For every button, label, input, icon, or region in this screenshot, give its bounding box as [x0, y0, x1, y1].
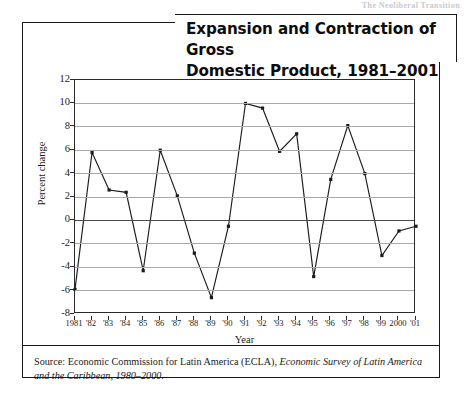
- x-tick-label-2: '83: [100, 318, 116, 328]
- series-line: [75, 103, 416, 297]
- plot-frame: [74, 79, 415, 313]
- y-tick-label--4: -4: [61, 261, 70, 271]
- source-prefix: Source: Economic Commission for Latin Am…: [34, 356, 280, 367]
- x-tick-label-10: '91: [237, 318, 253, 328]
- x-tick-label-12: '93: [271, 318, 287, 328]
- gridline-8: [75, 126, 414, 127]
- gridline-4: [75, 173, 414, 174]
- data-point-2000: [397, 229, 400, 232]
- data-point-1985: [142, 269, 145, 272]
- data-point-1995: [312, 275, 315, 278]
- source-suffix: .: [161, 370, 164, 381]
- x-tick-label-11: '92: [254, 318, 270, 328]
- data-point-1994: [295, 132, 298, 135]
- gridline-2: [75, 197, 414, 198]
- gridline--2: [75, 243, 414, 244]
- y-tick-label--6: -6: [61, 285, 70, 295]
- gridline-6: [75, 150, 414, 151]
- gridline--4: [75, 267, 414, 268]
- data-point-1996: [329, 178, 332, 181]
- x-tick-label-13: '94: [288, 318, 304, 328]
- data-point-1989: [210, 296, 213, 299]
- y-tick-label--8: -8: [61, 308, 70, 318]
- x-tick-label-7: '88: [185, 318, 201, 328]
- x-axis-tick-labels: 1981'82'83'84'85'86'87'88'89'90'91'92'93…: [74, 316, 415, 332]
- x-tick-label-1: '82: [83, 318, 99, 328]
- x-tick-label-5: '86: [151, 318, 167, 328]
- data-point-1982: [90, 151, 93, 154]
- running-head: The Neoliberal Transition: [248, 0, 460, 11]
- x-tick-label-8: '89: [202, 318, 218, 328]
- gridline-10: [75, 103, 414, 104]
- x-tick-label-17: '98: [356, 318, 372, 328]
- data-point-1988: [193, 252, 196, 255]
- x-tick-label-15: '96: [322, 318, 338, 328]
- source-note: Source: Economic Commission for Latin Am…: [34, 355, 428, 382]
- y-tick-label-12: 12: [60, 74, 71, 84]
- data-point-1983: [108, 188, 111, 191]
- x-tick-label-20: '01: [407, 318, 423, 328]
- x-tick-label-3: '84: [117, 318, 133, 328]
- gridline-0: [75, 220, 414, 221]
- y-tick-label--2: -2: [61, 238, 70, 248]
- data-point-1999: [380, 254, 383, 257]
- x-tick-label-9: '90: [219, 318, 235, 328]
- figure-title-line-1: Expansion and Contraction of Gross: [186, 19, 458, 61]
- y-tick-label-10: 10: [60, 97, 71, 107]
- x-tick-label-6: '87: [168, 318, 184, 328]
- data-point-2001: [414, 225, 417, 228]
- y-axis-tick-labels: 121086420-2-4-6-8: [44, 79, 70, 313]
- figure-title-line-2: Domestic Product, 1981–2001: [186, 61, 458, 82]
- data-point-1992: [261, 106, 264, 109]
- x-tick-label-4: '85: [134, 318, 150, 328]
- gridline--6: [75, 290, 414, 291]
- data-point-1990: [227, 225, 230, 228]
- figure-title: Expansion and Contraction of Gross Domes…: [186, 19, 458, 82]
- x-tick-label-16: '97: [339, 318, 355, 328]
- x-tick-label-14: '95: [305, 318, 321, 328]
- data-point-1984: [125, 191, 128, 194]
- source-divider: [22, 345, 440, 346]
- x-axis-title: Year: [74, 334, 415, 345]
